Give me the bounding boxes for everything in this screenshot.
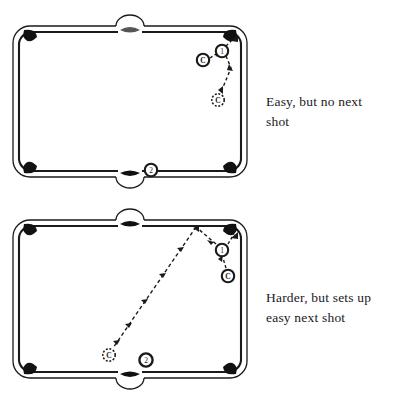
side-pocket-bottom [120, 171, 140, 177]
side-pocket-top [120, 221, 140, 227]
cue-ball-future: C [103, 349, 115, 361]
cue-ball: C [197, 54, 209, 66]
cue-ball-label: C [200, 56, 205, 65]
cue-ball-future: C [212, 94, 224, 106]
ball-1-label: 1 [220, 246, 224, 255]
arrow-cue-rebound-1 [227, 64, 233, 71]
arrow-cue-rebound-2 [218, 86, 223, 94]
ball-2-label: 2 [149, 166, 153, 175]
caption-harder-line-1: Harder, but sets up [266, 288, 406, 308]
arrow-rail-1 [207, 240, 214, 245]
caption-harder-line-2: easy next shot [266, 308, 406, 328]
ball-1: 1 [216, 45, 228, 57]
cue-travel-path [113, 227, 196, 348]
ball-1: 1 [216, 244, 228, 256]
table-2-rails [13, 209, 247, 389]
table-1-arrowheads [215, 35, 238, 94]
table-1-rails [13, 15, 247, 188]
table-2-paths [113, 227, 234, 348]
side-pocket-top [120, 27, 140, 33]
caption-harder-shot: Harder, but sets up easy next shot [266, 288, 406, 327]
arrow-travel-1 [177, 247, 184, 252]
table-1-balls: C 1 C 2 [145, 45, 228, 176]
table-2-balls: C 1 C 2 [103, 244, 234, 367]
harder-shot-diagram: C 1 C 2 [0, 198, 260, 405]
cue-ball: C [222, 270, 234, 282]
pool-table-1-svg: C 1 C 2 [0, 0, 260, 200]
side-pocket-bottom [120, 372, 140, 378]
ball-2: 2 [139, 353, 152, 366]
table-2-pockets [23, 221, 237, 377]
object-to-pocket-path [228, 234, 234, 244]
cue-to-object-path [223, 258, 226, 268]
caption-easy-line-1: Easy, but no next [266, 92, 406, 112]
arrow-travel-5 [113, 340, 120, 345]
cue-ball-future-label: C [215, 96, 220, 105]
caption-easy-line-2: shot [266, 112, 406, 132]
arrow-travel-2 [159, 273, 166, 278]
arrow-travel-4 [125, 323, 132, 328]
ball-2-label: 2 [144, 356, 148, 365]
pool-table-2-svg: C 1 C 2 [0, 198, 260, 405]
caption-easy-shot: Easy, but no next shot [266, 92, 406, 131]
ball-2: 2 [145, 164, 157, 176]
cue-ball-future-label: C [106, 351, 111, 360]
arrow-travel-3 [141, 299, 148, 304]
table-1-pockets [23, 27, 237, 176]
easy-shot-diagram: C 1 C 2 [0, 0, 260, 200]
ball-1-label: 1 [220, 47, 224, 56]
cue-ball-label: C [225, 272, 230, 281]
